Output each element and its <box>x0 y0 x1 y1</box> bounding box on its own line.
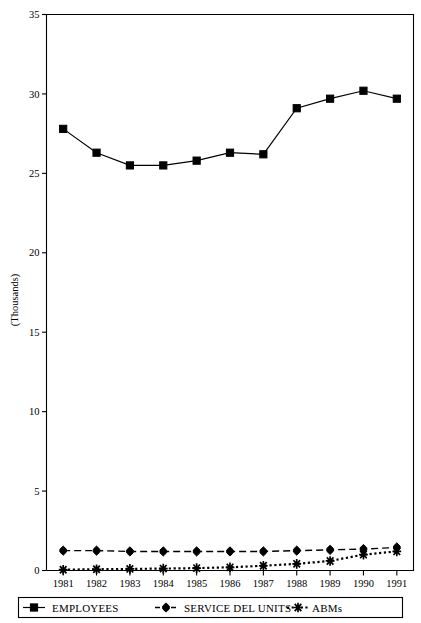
data-point-marker <box>126 564 135 574</box>
data-point-marker <box>294 603 303 613</box>
legend-label: SERVICE DEL UNITS <box>184 602 291 614</box>
y-tick-label: 35 <box>29 9 40 20</box>
data-point-marker <box>59 565 68 575</box>
data-point-marker <box>92 564 101 574</box>
legend-label: ABMs <box>312 602 342 614</box>
x-tick-label: 1981 <box>53 578 74 589</box>
data-point-marker <box>192 563 201 573</box>
data-point-marker <box>126 162 133 169</box>
chart-container: 35302520151050 1981198219831984198519861… <box>0 0 421 623</box>
data-point-marker <box>159 564 168 574</box>
data-point-marker <box>260 151 267 158</box>
data-point-marker <box>226 563 235 573</box>
y-tick-label: 15 <box>29 327 40 338</box>
x-tick-label: 1990 <box>353 578 374 589</box>
data-point-marker <box>360 87 367 94</box>
data-point-marker <box>259 561 268 571</box>
data-point-marker <box>30 604 37 611</box>
data-point-marker <box>326 95 333 102</box>
x-tick-label: 1984 <box>153 578 175 589</box>
data-point-marker <box>60 125 67 132</box>
data-point-marker <box>359 550 368 560</box>
data-point-marker <box>93 149 100 156</box>
data-point-marker <box>293 105 300 112</box>
x-tick-label: 1987 <box>253 578 274 589</box>
y-tick-label: 30 <box>29 89 40 100</box>
chart-background <box>0 0 421 623</box>
data-point-marker <box>392 547 401 557</box>
x-tick-label: 1982 <box>86 578 107 589</box>
x-tick-label: 1989 <box>320 578 341 589</box>
data-point-marker <box>193 157 200 164</box>
data-point-marker <box>393 95 400 102</box>
x-tick-label: 1991 <box>386 578 407 589</box>
data-point-marker <box>292 559 301 569</box>
x-tick-label: 1985 <box>186 578 207 589</box>
y-tick-label: 10 <box>29 406 40 417</box>
y-tick-label: 20 <box>29 247 40 258</box>
y-tick-label: 25 <box>29 168 40 179</box>
y-tick-label: 5 <box>34 486 39 497</box>
x-tick-label: 1986 <box>220 578 241 589</box>
y-axis-title: (Thousands) <box>9 273 21 326</box>
y-axis-title-label: (Thousands) <box>9 273 21 326</box>
data-point-marker <box>226 149 233 156</box>
legend-label: EMPLOYEES <box>52 602 119 614</box>
x-tick-label: 1983 <box>119 578 140 589</box>
y-tick-label: 0 <box>34 565 39 576</box>
data-point-marker <box>160 162 167 169</box>
line-chart: 35302520151050 1981198219831984198519861… <box>0 0 421 623</box>
data-point-marker <box>326 556 335 566</box>
x-tick-label: 1988 <box>286 578 307 589</box>
